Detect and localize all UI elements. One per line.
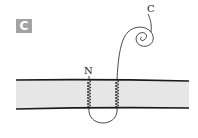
intracellular-loop — [89, 108, 117, 123]
c-terminus-label: C — [147, 4, 155, 14]
membrane-bottom-line — [16, 108, 189, 109]
membrane-bilayer — [16, 80, 189, 109]
n-terminus-label: N — [84, 66, 93, 76]
c-terminus-tail — [117, 14, 153, 80]
membrane-diagram — [0, 0, 198, 138]
